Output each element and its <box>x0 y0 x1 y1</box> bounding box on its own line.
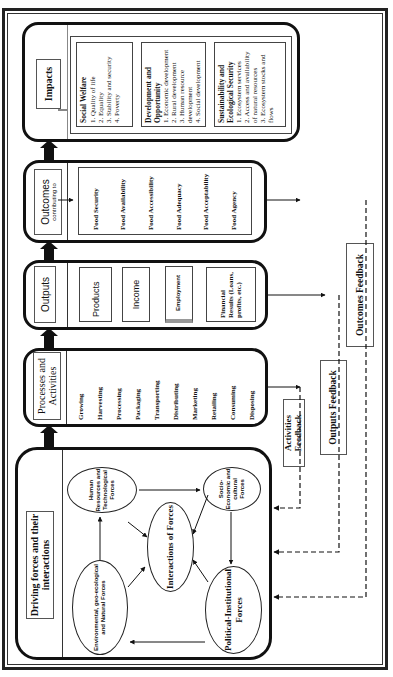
process-item: Packaging <box>134 352 142 420</box>
processes-divider <box>66 351 67 424</box>
activities-feedback-label: Activities Feedback <box>283 399 305 467</box>
outcome-item: Food Acceptability <box>202 172 210 230</box>
output-products: Products <box>79 267 112 322</box>
outcomes-divider <box>67 163 68 240</box>
process-item: Growing <box>77 352 85 420</box>
outputs-feedback-label: Outputs Feedback <box>320 360 347 455</box>
processes-list: Growing Harvesting Processing Packaging … <box>72 352 262 420</box>
process-item: Harvesting <box>96 352 104 420</box>
driving-forces-title: Driving forces and their interactions <box>26 511 54 619</box>
process-item: Marketing <box>191 352 199 420</box>
socio-economic-ellipse: Socio-Economic and cultural Forces <box>203 467 261 511</box>
process-item: Consuming <box>229 352 237 420</box>
output-employment: Employment <box>165 266 193 323</box>
impact-group-development: Development and Opportunity 1. Economic … <box>141 42 206 127</box>
driving-forces-divider <box>62 450 63 657</box>
outputs-title: Outputs <box>34 266 56 323</box>
impacts-divider <box>67 25 68 139</box>
outcome-item: Food Accessibility <box>147 172 155 230</box>
process-item: Transporting <box>153 352 161 420</box>
process-item: Retailing <box>210 352 218 420</box>
processes-box: Processes and Activities Growing Harvest… <box>23 348 268 427</box>
political-institutional-ellipse: Political-Institutional Forces <box>205 566 262 654</box>
food-system-diagram: Driving forces and their interactions Hu… <box>0 0 393 677</box>
outcomes-feedback-label: Outcomes Feedback <box>346 243 374 347</box>
outcome-item: Food Agency <box>230 172 238 230</box>
outcome-item: Food Adequacy <box>175 172 183 230</box>
outcomes-box: Outcomes contributing to Food Security F… <box>23 160 267 243</box>
impacts-title: Impacts <box>36 59 61 109</box>
output-income: Income <box>122 267 150 322</box>
process-item: Distributing <box>172 352 180 420</box>
interactions-of-forces-ellipse: Interactions of Forces <box>147 502 194 592</box>
human-resources-ellipse: Human Resources and Technological Forces <box>67 467 137 513</box>
outcomes-title: Outcomes contributing to <box>34 169 62 235</box>
outputs-box: Outputs Products Income Employment Finan… <box>23 260 268 330</box>
process-item: Processing <box>115 352 123 420</box>
impact-group-sustainability: Sustainability and Ecological Security 1… <box>214 42 286 127</box>
output-financial-results: Financial Results (Loans, profits, etc.) <box>206 267 256 322</box>
process-item: Disposing <box>248 352 256 420</box>
outcome-item: Food Availability <box>119 172 127 230</box>
impact-group-social-welfare: Social Welfare 1. Quality of life 2. Equ… <box>76 42 133 127</box>
impacts-box: Impacts Social Welfare 1. Quality of lif… <box>22 22 300 142</box>
processes-title: Processes and Activities <box>33 352 61 420</box>
outcomes-list: Food Security Food Availability Food Acc… <box>78 167 252 235</box>
outputs-divider <box>67 263 68 327</box>
outcome-item: Food Security <box>92 172 100 230</box>
impacts-groups-container: Social Welfare 1. Quality of life 2. Equ… <box>70 36 292 134</box>
environmental-ellipse: Environmental, geo-ecological and Natura… <box>72 560 128 655</box>
